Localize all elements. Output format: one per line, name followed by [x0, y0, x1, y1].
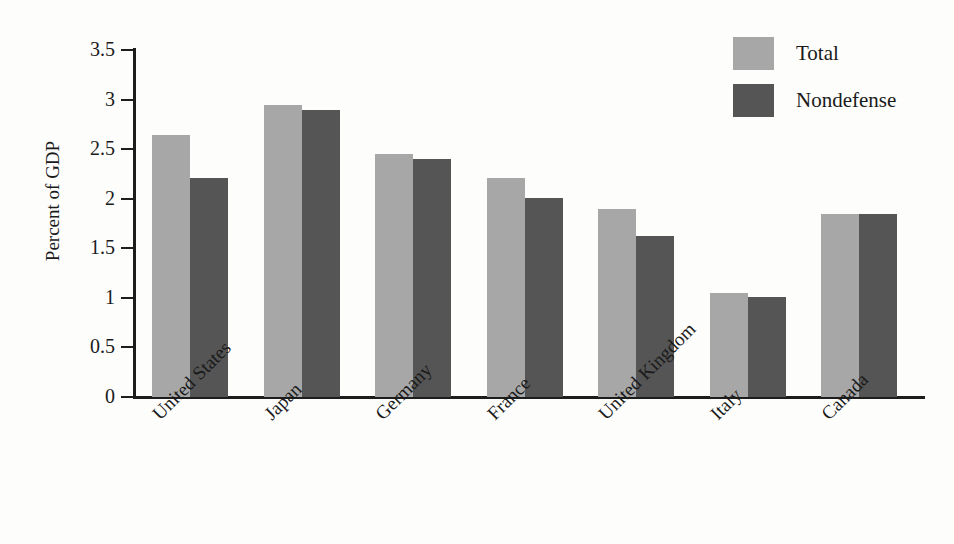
bar-total-japan: [264, 105, 302, 397]
bar-nondefense-japan: [302, 110, 340, 398]
y-axis-tick-label: 3.5: [45, 39, 115, 59]
legend-label: Nondefense: [796, 86, 896, 114]
bar-total-germany: [375, 154, 413, 397]
y-axis-tick-label: 3: [45, 89, 115, 109]
bar-total-france: [487, 178, 525, 397]
y-axis-tick-label: 2.5: [45, 138, 115, 158]
y-axis-tick-label: 1: [45, 287, 115, 307]
legend-swatch: [733, 84, 774, 117]
bar-total-united-states: [152, 135, 190, 397]
legend-swatch: [733, 37, 774, 70]
legend-label: Total: [796, 39, 839, 67]
y-axis-ticks: 00.511.522.533.5: [0, 0, 135, 544]
bar-total-canada: [821, 214, 859, 397]
bar-nondefense-italy: [748, 297, 786, 397]
chart-figure: Percent of GDP 00.511.522.533.5 United S…: [0, 0, 954, 544]
y-axis-tick-label: 0: [45, 386, 115, 406]
bar-nondefense-canada: [859, 214, 897, 397]
y-axis-tick-label: 0.5: [45, 336, 115, 356]
bar-nondefense-france: [525, 198, 563, 397]
bar-total-united-kingdom: [598, 209, 636, 397]
bar-total-italy: [710, 293, 748, 397]
y-axis-tick-label: 1.5: [45, 237, 115, 257]
y-axis-tick-label: 2: [45, 188, 115, 208]
